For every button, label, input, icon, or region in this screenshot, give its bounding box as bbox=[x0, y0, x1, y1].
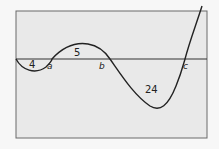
area-label-region1: 4 bbox=[29, 59, 35, 70]
area-label-region3: 24 bbox=[145, 84, 158, 95]
curve-area-diagram: 4 5 24 a b c bbox=[0, 0, 219, 149]
area-label-region2: 5 bbox=[74, 47, 80, 58]
point-label-b: b bbox=[99, 61, 105, 71]
point-label-a: a bbox=[47, 61, 53, 71]
point-label-c: c bbox=[183, 61, 188, 71]
diagram-canvas: 4 5 24 a b c bbox=[0, 0, 219, 149]
plot-frame bbox=[16, 11, 207, 138]
